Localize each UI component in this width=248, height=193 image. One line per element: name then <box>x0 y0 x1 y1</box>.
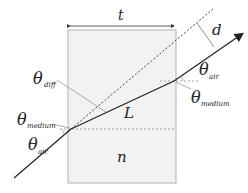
theta-medium-exit-leader <box>176 82 191 89</box>
theta-diff-label: θ <box>33 69 43 88</box>
theta-air-exit-label: θ <box>199 60 209 79</box>
theta-air-entry-subscript: air <box>38 148 48 156</box>
theta-medium-exit-subscript: medium <box>201 100 230 108</box>
angle-arc-exit <box>181 76 183 81</box>
thickness-label: t <box>118 7 124 23</box>
theta-medium-entry-subscript: medium <box>27 122 56 130</box>
theta-air-exit-subscript: air <box>209 73 219 81</box>
displacement-label: d <box>212 21 222 39</box>
theta-medium-exit-label: θ <box>191 88 201 107</box>
refractive-index-label: n <box>117 148 127 166</box>
theta-medium-entry-label: θ <box>17 110 27 129</box>
theta-air-entry-label: θ <box>28 135 38 154</box>
refraction-diagram: t d L n θ diff θ medium θ air θ air θ me… <box>0 0 248 193</box>
theta-diff-subscript: diff <box>44 81 57 89</box>
path-length-label: L <box>123 104 134 122</box>
angle-arc-entry <box>62 129 64 135</box>
